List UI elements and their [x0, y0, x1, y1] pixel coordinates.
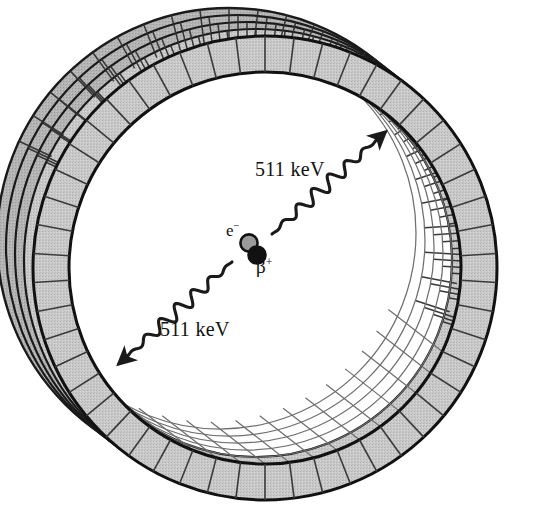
electron-charge-sign: − — [234, 220, 240, 231]
positron-label: β+ — [256, 256, 272, 278]
photon-upper-energy-label: 511 keV — [255, 158, 325, 181]
positron-charge-sign: + — [266, 256, 273, 269]
photon-lower-energy-label: 511 keV — [160, 318, 230, 341]
electron-symbol: e — [226, 221, 234, 240]
positron-symbol: β — [256, 256, 266, 277]
pet-scanner-figure: 511 keV 511 keV e− β+ — [0, 0, 541, 522]
electron-label: e− — [226, 220, 240, 241]
